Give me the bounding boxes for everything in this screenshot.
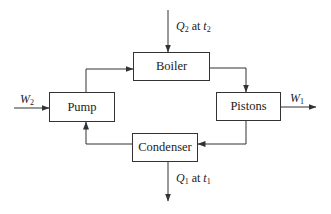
work-out-label: W1 — [290, 91, 304, 106]
pistons-node: Pistons — [216, 92, 281, 121]
pump-node: Pump — [49, 92, 115, 122]
boiler-label: Boiler — [156, 59, 187, 74]
heat-out-label: Q1 at t1 — [176, 171, 211, 186]
boiler-node: Boiler — [133, 52, 210, 81]
pistons-to-condenser-arrow — [198, 121, 246, 144]
condenser-label: Condenser — [138, 140, 191, 155]
heat-in-label: Q2 at t2 — [176, 19, 211, 34]
pump-to-boiler-arrow — [86, 69, 133, 92]
condenser-to-pump-arrow — [86, 122, 132, 144]
pump-label: Pump — [67, 100, 96, 115]
condenser-node: Condenser — [132, 133, 198, 162]
work-in-label: W2 — [20, 92, 34, 107]
boiler-to-pistons-arrow — [210, 68, 246, 92]
pistons-label: Pistons — [230, 99, 266, 114]
